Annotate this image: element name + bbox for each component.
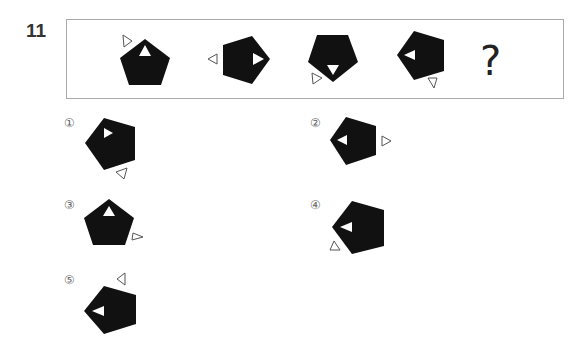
option-3-label[interactable]: ③ <box>64 198 75 212</box>
sequence-figure-4 <box>397 31 444 88</box>
sequence-figure-1 <box>120 35 170 85</box>
question-mark: ? <box>480 38 501 84</box>
option-1-figure[interactable] <box>85 118 135 179</box>
option-5-label[interactable]: ⑤ <box>64 273 75 287</box>
option-1-label[interactable]: ① <box>64 116 75 130</box>
option-3-figure[interactable] <box>84 199 143 245</box>
option-2-figure[interactable] <box>330 117 391 165</box>
option-5-figure[interactable] <box>84 273 136 334</box>
sequence-figure-2 <box>208 36 270 84</box>
option-2-label[interactable]: ② <box>310 116 321 130</box>
option-4-figure[interactable] <box>330 201 384 254</box>
sequence-figure-3 <box>308 35 358 84</box>
option-4-label[interactable]: ④ <box>310 198 321 212</box>
